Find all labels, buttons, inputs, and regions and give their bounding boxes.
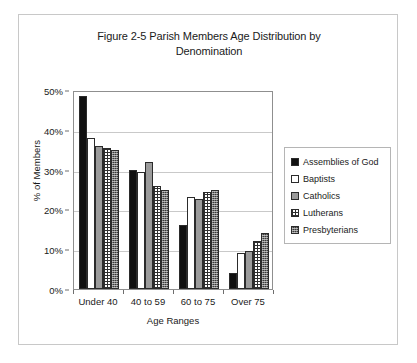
chart-title-line-2: Denomination	[59, 44, 359, 59]
y-axis-tick-label: 40%	[44, 125, 63, 136]
x-axis-tick-mark	[173, 290, 174, 294]
legend-swatch-icon	[291, 158, 299, 166]
bar[interactable]	[161, 190, 169, 290]
legend-label: Presbyterians	[303, 225, 358, 235]
bar[interactable]	[261, 233, 269, 289]
legend-item[interactable]: Assemblies of God	[291, 153, 386, 170]
bar[interactable]	[195, 199, 203, 289]
bar[interactable]	[179, 225, 187, 289]
y-axis-tick-mark	[65, 91, 69, 92]
bar[interactable]	[95, 146, 103, 289]
y-axis-tick-label: 50%	[44, 86, 63, 97]
chart-title-line-1: Figure 2-5 Parish Members Age Distributi…	[59, 29, 359, 44]
bar[interactable]	[79, 96, 87, 289]
bar-group	[224, 92, 274, 289]
bar[interactable]	[187, 197, 195, 289]
legend-swatch-icon	[291, 175, 299, 183]
legend-swatch-icon	[291, 226, 299, 234]
x-axis-tick-mark	[123, 290, 124, 294]
legend-label: Baptists	[303, 174, 335, 184]
x-axis-tick-mark	[223, 290, 224, 294]
legend-swatch-icon	[291, 192, 299, 200]
y-axis-labels: 0%10%20%30%40%50%	[29, 91, 69, 290]
legend-label: Assemblies of God	[303, 157, 379, 167]
bar-group	[124, 92, 174, 289]
x-axis-tick-mark	[273, 290, 274, 294]
y-axis-tick-mark	[65, 170, 69, 171]
x-axis-tick-mark	[73, 290, 74, 294]
x-axis-ticks	[73, 290, 273, 295]
bar[interactable]	[211, 190, 219, 290]
x-axis-tick-label: 60 to 75	[181, 296, 215, 307]
bar[interactable]	[253, 241, 261, 289]
bar[interactable]	[245, 251, 253, 289]
legend-item[interactable]: Presbyterians	[291, 221, 386, 238]
bar[interactable]	[229, 273, 237, 289]
legend-item[interactable]: Baptists	[291, 170, 386, 187]
y-axis-tick-label: 20%	[44, 205, 63, 216]
bar[interactable]	[145, 162, 153, 289]
legend-item[interactable]: Lutherans	[291, 204, 386, 221]
y-axis-tick-label: 30%	[44, 165, 63, 176]
legend-swatch-icon	[291, 209, 299, 217]
plot-area	[73, 91, 273, 290]
bar[interactable]	[137, 172, 145, 289]
bar[interactable]	[153, 186, 161, 289]
bar[interactable]	[237, 253, 245, 289]
x-axis-tick-label: Under 40	[78, 296, 117, 307]
y-axis-tick-label: 0%	[49, 285, 63, 296]
bar-group	[74, 92, 124, 289]
y-axis-tick-mark	[65, 130, 69, 131]
x-axis-tick-label: Over 75	[231, 296, 265, 307]
bar[interactable]	[129, 170, 137, 289]
bar[interactable]	[87, 138, 95, 289]
x-axis-labels: Under 4040 to 5960 to 75Over 75	[59, 296, 287, 310]
chart-legend: Assemblies of GodBaptistsCatholicsLuther…	[284, 147, 391, 244]
y-axis-tick-label: 10%	[44, 245, 63, 256]
chart-title: Figure 2-5 Parish Members Age Distributi…	[59, 29, 359, 59]
figure-frame: Figure 2-5 Parish Members Age Distributi…	[18, 14, 398, 345]
y-axis-tick-mark	[65, 290, 69, 291]
x-axis-title: Age Ranges	[73, 315, 273, 326]
legend-label: Lutherans	[303, 208, 343, 218]
bar[interactable]	[103, 148, 111, 289]
bar[interactable]	[203, 192, 211, 290]
y-axis-tick-mark	[65, 250, 69, 251]
legend-label: Catholics	[303, 191, 340, 201]
y-axis-tick-mark	[65, 210, 69, 211]
bar-group	[174, 92, 224, 289]
bar[interactable]	[111, 150, 119, 289]
x-axis-tick-label: 40 to 59	[131, 296, 165, 307]
legend-item[interactable]: Catholics	[291, 187, 386, 204]
